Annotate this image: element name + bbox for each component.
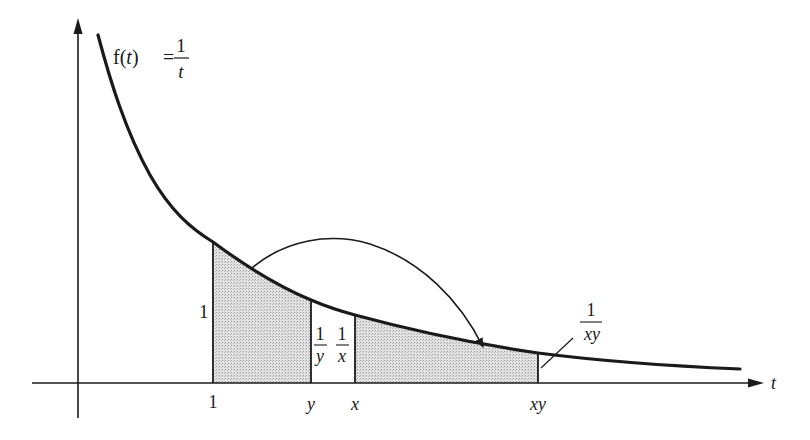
height-label-1-over-x: 1 x (336, 324, 349, 366)
svg-text:f(t): f(t) (113, 46, 139, 69)
function-label: f(t) = 1 t (113, 35, 189, 82)
tick-label-x: x (350, 394, 359, 414)
svg-text:xy: xy (583, 324, 600, 344)
tick-label-xy: xy (529, 394, 546, 414)
x-axis-label: t (771, 373, 777, 393)
svg-text:1: 1 (176, 35, 186, 56)
svg-text:x: x (337, 346, 346, 366)
svg-text:=: = (163, 46, 174, 68)
svg-text:y: y (314, 346, 324, 366)
svg-text:1: 1 (338, 324, 347, 344)
x-axis-arrowhead-icon (748, 379, 764, 388)
curve-one-over-t (98, 35, 740, 369)
tick-label-y: y (305, 394, 315, 414)
y-axis-arrowhead-icon (74, 18, 83, 34)
height-label-1: 1 (199, 301, 209, 322)
svg-text:1: 1 (587, 300, 596, 320)
height-label-1-over-xy: 1 xy (580, 300, 602, 344)
tick-label-1: 1 (209, 392, 218, 412)
shaded-region-1-to-y (213, 242, 311, 383)
svg-text:t: t (178, 61, 184, 82)
height-label-1-over-y: 1 y (314, 324, 327, 366)
svg-text:1: 1 (316, 324, 325, 344)
log-area-diagram: t f(t) = 1 t 1 1 y 1 x 1 xy 1 y x (0, 0, 810, 440)
